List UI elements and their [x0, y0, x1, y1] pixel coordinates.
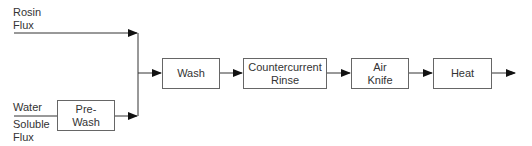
pre-wash-box: Pre- Wash [57, 100, 115, 131]
water-soluble-flux-label-top: Water [13, 101, 42, 114]
heat-box: Heat [433, 58, 492, 89]
rosin-flux-label: Rosin Flux [13, 6, 41, 32]
wash-box: Wash [162, 58, 220, 89]
air-knife-box: Air Knife [351, 58, 409, 89]
water-soluble-flux-label-bottom: Soluble Flux [13, 118, 50, 144]
countercurrent-rinse-box: Countercurrent Rinse [243, 58, 327, 89]
